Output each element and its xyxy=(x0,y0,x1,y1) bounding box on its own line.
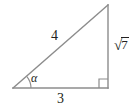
triangle-side-hypotenuse xyxy=(13,5,108,88)
triangle-drawing xyxy=(0,0,140,109)
triangle-figure: 4 3 √7 α xyxy=(0,0,140,109)
radicand-value: 7 xyxy=(121,37,129,51)
hypotenuse-label: 4 xyxy=(51,29,58,43)
right-angle-marker-icon xyxy=(99,79,108,88)
vertical-side-label: √7 xyxy=(114,38,129,53)
radical-expression: √7 xyxy=(114,38,129,53)
base-label: 3 xyxy=(57,92,64,106)
angle-label: α xyxy=(31,72,37,84)
